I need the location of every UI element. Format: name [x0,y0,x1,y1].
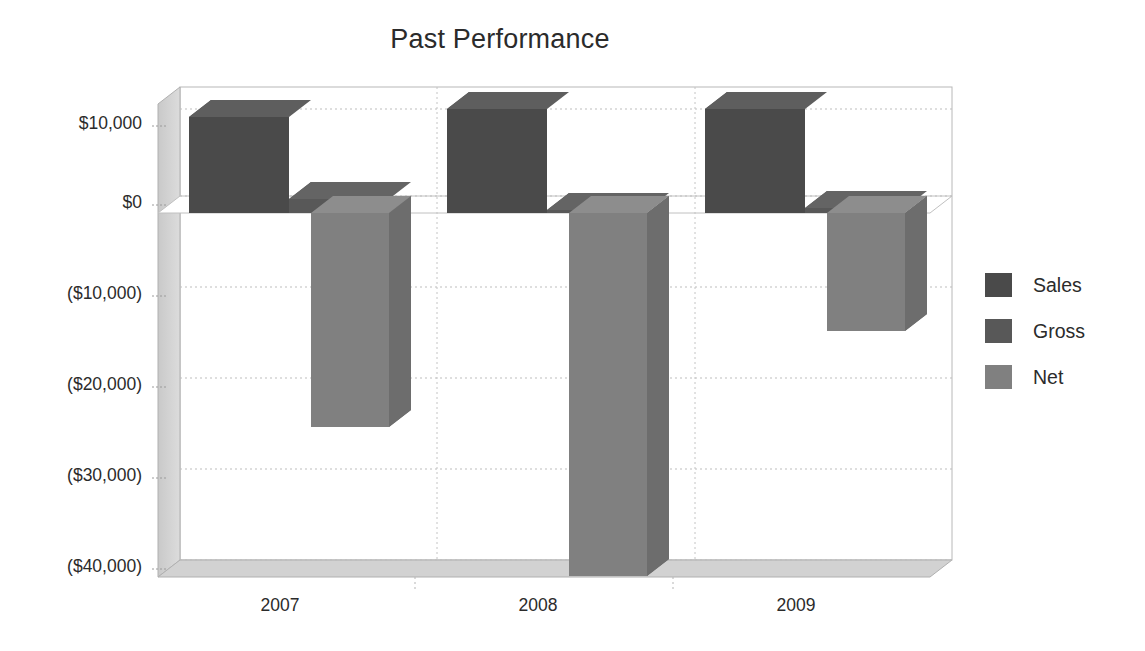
y-axis-label-0: $10,000 [0,113,142,134]
bar-2007-net[interactable] [311,196,411,427]
y-axis-label-1: $0 [0,192,142,213]
legend-swatch-net [985,365,1012,389]
x-axis-label-2009: 2009 [741,595,851,616]
bar-2008-net[interactable] [569,196,669,576]
legend-label-sales: Sales [1033,274,1082,297]
y-axis-label-4: ($30,000) [0,465,142,486]
chart-legend: Sales Gross Net [985,262,1135,400]
legend-item-gross[interactable]: Gross [985,308,1135,354]
y-axis-label-5: ($40,000) [0,556,142,577]
legend-item-sales[interactable]: Sales [985,262,1135,308]
chart-container: Past Performance [0,0,1145,651]
legend-swatch-sales [985,273,1012,297]
x-axis-label-2008: 2008 [483,595,593,616]
x-tick-marks [415,577,673,592]
legend-label-gross: Gross [1033,320,1085,343]
legend-label-net: Net [1033,366,1063,389]
left-wall [158,87,180,577]
y-axis-label-2: ($10,000) [0,283,142,304]
chart-plot-area [0,0,1145,651]
legend-item-net[interactable]: Net [985,354,1135,400]
bar-2009-net[interactable] [827,196,927,331]
legend-swatch-gross [985,319,1012,343]
y-axis-label-3: ($20,000) [0,374,142,395]
floor-plane [158,560,952,577]
x-axis-label-2007: 2007 [225,595,335,616]
